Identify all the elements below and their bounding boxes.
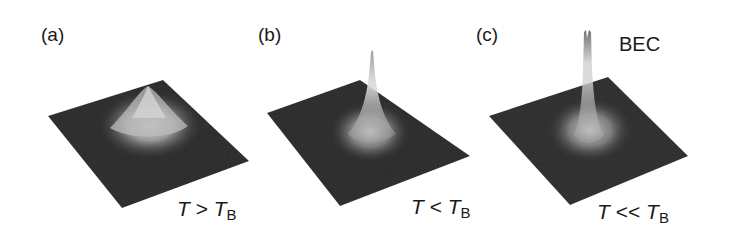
- condition-operator: <: [430, 195, 442, 218]
- condition-rhs: T: [214, 197, 227, 220]
- condition-rhs-subscript: B: [461, 204, 471, 221]
- condition-rhs-subscript: B: [659, 209, 669, 226]
- panel-label-a: (a): [41, 24, 64, 46]
- condition-lhs: T: [411, 195, 424, 218]
- surface-plot-a: [48, 80, 249, 208]
- condition-lhs: T: [597, 200, 610, 223]
- panel-label-c: (c): [476, 24, 498, 46]
- bec-annotation: BEC: [619, 33, 660, 56]
- condition-rhs-subscript: B: [227, 206, 237, 223]
- condition-label-b: T < TB: [411, 195, 471, 221]
- condition-lhs: T: [177, 197, 190, 220]
- condition-rhs: T: [646, 200, 659, 223]
- condition-operator: >: [196, 197, 208, 220]
- condition-rhs: T: [448, 195, 461, 218]
- surface-plot-c: [489, 30, 688, 205]
- condition-label-c: T << TB: [597, 200, 669, 226]
- condition-label-a: T > TB: [177, 197, 237, 223]
- surface-plot-b: [267, 50, 470, 206]
- condition-operator: <<: [616, 200, 641, 223]
- panel-label-b: (b): [258, 24, 281, 46]
